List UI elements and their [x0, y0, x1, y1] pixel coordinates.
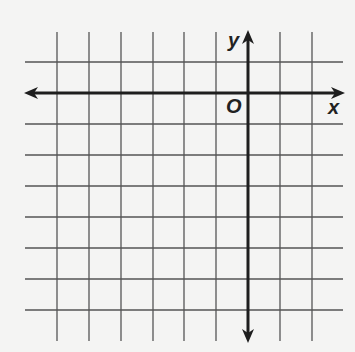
x-axis-label: x — [327, 96, 340, 118]
y-axis-label: y — [227, 29, 240, 51]
origin-label: O — [226, 95, 242, 117]
grid — [25, 32, 343, 341]
coordinate-plane: y O x — [0, 0, 355, 352]
